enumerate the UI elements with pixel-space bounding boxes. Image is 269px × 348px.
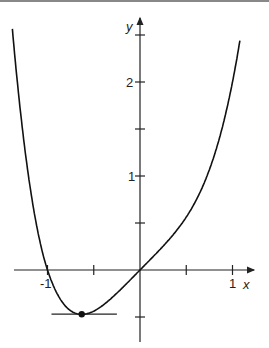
y-tick-label-2: 2 bbox=[126, 76, 133, 89]
y-tick-label-1: 1 bbox=[128, 170, 135, 183]
x-tick-label-1: 1 bbox=[229, 277, 236, 290]
x-tick-label-neg1: -1 bbox=[40, 277, 52, 290]
minimum-point bbox=[79, 311, 85, 317]
x-axis-label: x bbox=[243, 278, 250, 291]
y-axis-label: y bbox=[126, 20, 133, 33]
function-curve bbox=[12, 29, 240, 315]
